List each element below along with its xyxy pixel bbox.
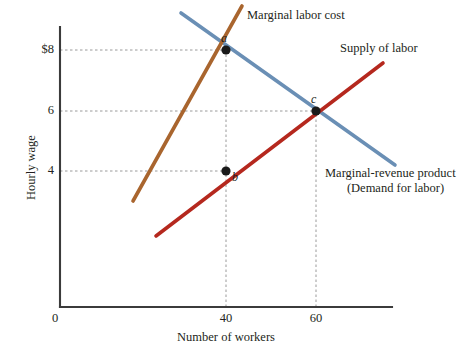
x-axis-title: Number of workers — [143, 330, 309, 344]
curve-label-mrp-line1: Marginal-revenue product — [325, 166, 456, 180]
y-tick-label-8: $8 — [18, 42, 54, 56]
curve-supply-of-labor — [156, 63, 383, 236]
y-axis-title: Hourly wage — [24, 135, 38, 200]
point-label-c: c — [311, 93, 316, 106]
y-tick-label-6: 6 — [18, 103, 54, 117]
curve-label-mrp-line2: (Demand for labor) — [325, 181, 466, 195]
point-marker-a — [221, 45, 230, 54]
guide-lines — [60, 50, 316, 307]
curve-label-marginal-labor-cost: Marginal labor cost — [247, 8, 345, 22]
x-tick-label-40: 40 — [213, 311, 239, 325]
point-marker-b — [221, 166, 230, 175]
curve-label-supply-of-labor: Supply of labor — [340, 41, 418, 55]
curve-marginal-revenue-product — [181, 13, 395, 165]
point-label-b: b — [232, 171, 238, 184]
labor-market-chart: $8 6 4 0 40 60 Number of workers Hourly … — [0, 0, 467, 350]
x-origin-label: 0 — [42, 311, 68, 325]
x-tick-label-60: 60 — [303, 311, 329, 325]
point-label-a: a — [221, 32, 227, 45]
point-marker-c — [311, 106, 320, 115]
